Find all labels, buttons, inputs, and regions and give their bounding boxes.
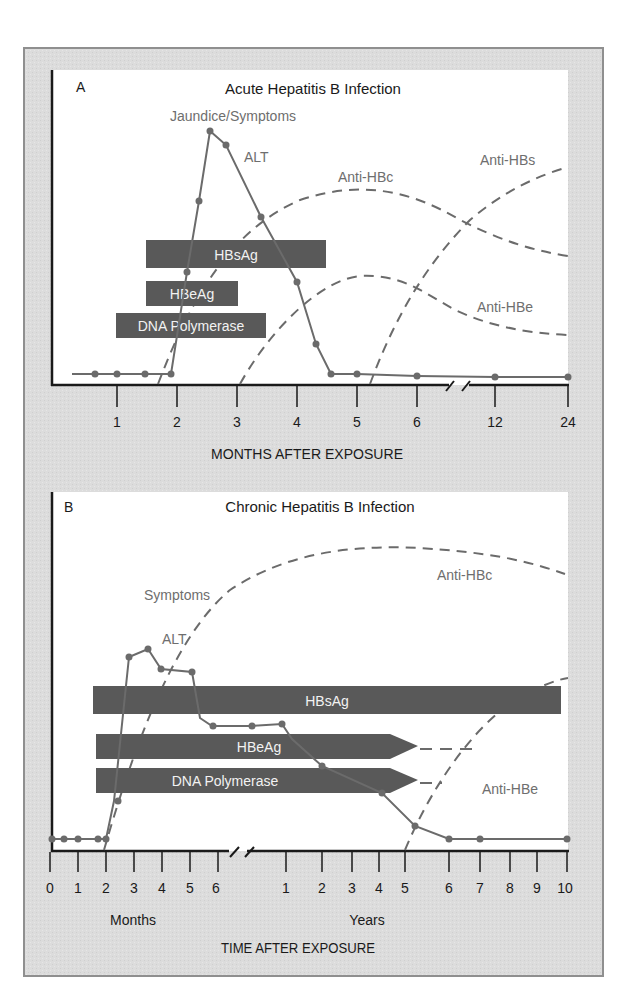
panel-a-tick-label: 4 — [293, 414, 301, 430]
panel-b-year-tick-label: 10 — [557, 880, 573, 896]
alt-label: ALT — [244, 149, 269, 165]
hbeag-bar-label: HBeAg — [237, 739, 281, 755]
panel-a-tick-label: 1 — [113, 414, 121, 430]
panel-b-month-tick-label: 1 — [74, 880, 82, 896]
panel-a-title: Acute Hepatitis B Infection — [225, 80, 401, 97]
panel-a-tick-label: 5 — [353, 414, 361, 430]
anti-hbc-label: Anti-HBc — [437, 567, 492, 583]
panel-b-letter: B — [64, 499, 73, 515]
panel-b-month-tick-label: 2 — [102, 880, 110, 896]
panel-b-month-tick-label: 0 — [46, 880, 54, 896]
panel-b-month-tick-label: 3 — [130, 880, 138, 896]
dna-polymerase-bar-label: DNA Polymerase — [138, 318, 245, 334]
panel-b-month-tick-label: 5 — [186, 880, 194, 896]
panel-a-tick-label: 6 — [413, 414, 421, 430]
hbsag-bar-label: HBsAg — [305, 693, 349, 709]
panel-a-x-axis-label: MONTHS AFTER EXPOSURE — [211, 446, 403, 462]
dna-polymerase-bar-label: DNA Polymerase — [172, 773, 279, 789]
hbsag-bar-label: HBsAg — [214, 247, 258, 263]
anti-hbc-label: Anti-HBc — [338, 169, 393, 185]
panel-b-month-tick-label: 4 — [158, 880, 166, 896]
panel-b-year-tick-label: 2 — [318, 880, 326, 896]
hepatitis-b-diagram: 1 2 3 4 5 6 12 24 MONTHS AFTER EXPOSURE … — [0, 0, 626, 997]
panel-b-year-tick-label: 8 — [506, 880, 514, 896]
jaundice-symptoms-label: Jaundice/Symptoms — [170, 108, 296, 124]
alt-label: ALT — [162, 631, 187, 647]
panel-b-year-tick-label: 3 — [348, 880, 356, 896]
panel-b-year-tick-label: 1 — [282, 880, 290, 896]
months-label: Months — [110, 912, 156, 928]
panel-b-year-tick-label: 6 — [445, 880, 453, 896]
panel-a-tick-label: 3 — [233, 414, 241, 430]
panel-b-month-tick-label: 6 — [212, 880, 220, 896]
panel-a-tick-label: 24 — [560, 414, 576, 430]
panel-b-title: Chronic Hepatitis B Infection — [225, 498, 414, 515]
hbeag-bar-label: HBeAg — [170, 286, 214, 302]
panel-a-tick-label: 2 — [173, 414, 181, 430]
panel-a-tick-label: 12 — [487, 414, 503, 430]
panel-b-year-tick-label: 5 — [401, 880, 409, 896]
panel-a-letter: A — [76, 79, 86, 95]
panel-b-year-tick-label: 9 — [533, 880, 541, 896]
panel-b-year-tick-label: 4 — [375, 880, 383, 896]
anti-hbs-label: Anti-HBs — [480, 152, 535, 168]
panel-b-background — [52, 492, 568, 851]
panel-b-x-axis-label: TIME AFTER EXPOSURE — [221, 940, 375, 956]
panel-b-year-tick-label: 7 — [476, 880, 484, 896]
symptoms-label: Symptoms — [144, 587, 210, 603]
anti-hbe-label: Anti-HBe — [482, 781, 538, 797]
anti-hbe-label: Anti-HBe — [477, 299, 533, 315]
years-label: Years — [349, 912, 384, 928]
